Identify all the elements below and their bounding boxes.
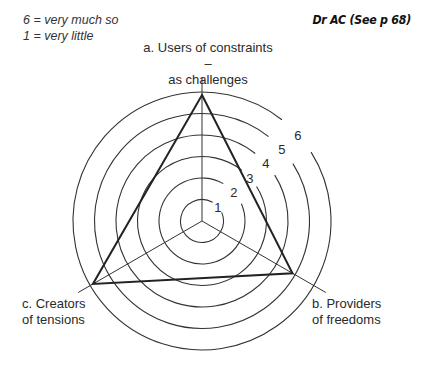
tick-label-1: 1 <box>214 200 221 215</box>
tick-label-6: 6 <box>294 128 301 143</box>
axis-label-c: c. Creators of tensions <box>22 296 86 328</box>
axis-label-b-line2: of freedoms <box>312 312 381 328</box>
tick-label-2: 2 <box>230 185 237 200</box>
axis-label-c-line1: c. Creators <box>22 296 86 312</box>
axis-label-a-line2: as challenges <box>138 72 278 88</box>
tick-label-5: 5 <box>278 142 285 157</box>
axis-label-a: a. Users of constraints – as challenges <box>138 40 278 88</box>
axis-label-b-line1: b. Providers <box>312 296 381 312</box>
axis-label-a-line1: a. Users of constraints – <box>138 40 278 72</box>
axis-label-b: b. Providers of freedoms <box>312 296 381 328</box>
axis-label-c-line2: of tensions <box>22 312 86 328</box>
tick-label-4: 4 <box>262 156 269 171</box>
axis-line-b <box>202 221 326 293</box>
